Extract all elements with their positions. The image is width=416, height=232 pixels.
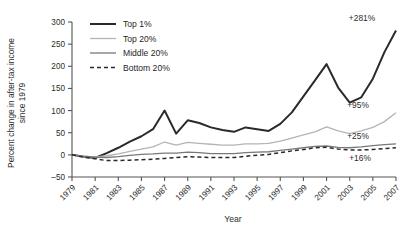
x-tick-label: 1995 xyxy=(243,183,263,203)
x-tick-marks xyxy=(72,177,396,181)
y-tick-label: 250 xyxy=(51,40,65,49)
x-tick-label: 1999 xyxy=(290,183,310,203)
x-tick-label: 2007 xyxy=(382,183,402,203)
x-tick-label: 2001 xyxy=(313,183,333,203)
x-tick-labels: 1979198119831985198719891991199319951997… xyxy=(58,183,402,203)
y-axis-label-line1: Percent change in after-tax income xyxy=(6,38,16,168)
x-axis: 1979198119831985198719891991199319951997… xyxy=(58,177,402,202)
y-tick-label: 100 xyxy=(51,107,65,116)
y-tick-label: 0 xyxy=(60,151,65,160)
y-axis: –50050100150200250300 xyxy=(51,18,72,182)
x-tick-label: 1993 xyxy=(220,183,240,203)
chart-container: –50050100150200250300 197919811983198519… xyxy=(0,0,416,232)
annotation-top-1: +281% xyxy=(349,13,376,23)
y-tick-label: 200 xyxy=(51,62,65,71)
y-tick-label: 50 xyxy=(56,129,66,138)
y-axis-label-line2: since 1979 xyxy=(17,82,27,123)
annotation-top-20: +95% xyxy=(347,100,369,110)
y-tick-marks xyxy=(68,22,72,177)
x-tick-label: 1987 xyxy=(151,183,171,203)
x-tick-label: 1991 xyxy=(197,183,217,203)
annotation-bottom-20: +16% xyxy=(349,153,371,163)
line-chart: –50050100150200250300 197919811983198519… xyxy=(0,0,416,232)
x-tick-label: 2003 xyxy=(336,183,356,203)
y-tick-label: –50 xyxy=(51,173,65,182)
legend-label-middle-20: Middle 20% xyxy=(123,48,168,58)
x-tick-label: 1985 xyxy=(128,183,148,203)
legend: Top 1%Top 20%Middle 20%Bottom 20% xyxy=(90,19,170,72)
y-tick-label: 150 xyxy=(51,84,65,93)
y-tick-labels: –50050100150200250300 xyxy=(51,18,65,182)
x-tick-label: 1981 xyxy=(81,183,101,203)
x-tick-label: 1979 xyxy=(58,183,78,203)
x-tick-label: 2005 xyxy=(359,183,379,203)
x-tick-label: 1989 xyxy=(174,183,194,203)
y-tick-label: 300 xyxy=(51,18,65,27)
legend-label-bottom-20: Bottom 20% xyxy=(123,63,170,73)
legend-label-top-1: Top 1% xyxy=(123,19,152,29)
series-end-annotations: +281%+95%+25%+16% xyxy=(347,13,376,162)
x-tick-label: 1997 xyxy=(266,183,286,203)
x-tick-label: 1983 xyxy=(104,183,124,203)
annotation-middle-20: +25% xyxy=(347,131,369,141)
legend-label-top-20: Top 20% xyxy=(123,34,157,44)
data-series-group xyxy=(72,30,396,160)
x-axis-label: Year xyxy=(224,214,242,224)
